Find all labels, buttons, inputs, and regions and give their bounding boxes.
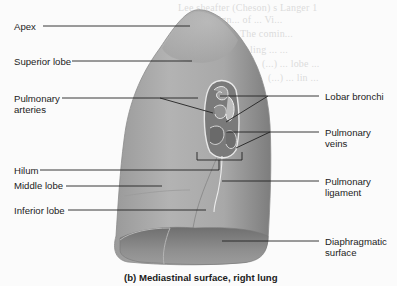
label-diaphragmatic-surface-line2: surface: [325, 247, 356, 258]
label-hilum: Hilum: [14, 165, 39, 176]
label-superior-lobe: Superior lobe: [14, 56, 71, 67]
label-lobar-bronchi: Lobar bronchi: [325, 91, 384, 102]
label-pulmonary-ligament: Pulmonary ligament: [325, 176, 371, 198]
label-pulmonary-ligament-line1: Pulmonary: [325, 176, 371, 187]
label-pulmonary-veins-line1: Pulmonary: [325, 127, 371, 138]
label-pulmonary-veins-line2: veins: [325, 138, 347, 149]
label-pulmonary-veins: Pulmonary veins: [325, 127, 371, 149]
label-pulmonary-arteries: Pulmonary arteries: [14, 93, 60, 115]
label-pulmonary-arteries-line1: Pulmonary: [14, 93, 60, 104]
diaphragmatic-surface-region: [120, 227, 268, 264]
label-diaphragmatic-surface: Diaphragmatic surface: [325, 236, 387, 258]
lung-diagram: Lee sheafter (Cheson) s Langer 1 Lu sign…: [0, 0, 397, 286]
label-diaphragmatic-surface-line1: Diaphragmatic: [325, 236, 387, 247]
label-inferior-lobe: Inferior lobe: [14, 205, 65, 216]
label-pulmonary-ligament-line2: ligament: [325, 187, 361, 198]
label-middle-lobe: Middle lobe: [14, 180, 63, 191]
figure-caption: (b) Mediastinal surface, right lung: [124, 272, 278, 283]
label-pulmonary-arteries-line2: arteries: [14, 104, 46, 115]
label-apex: Apex: [14, 21, 36, 32]
